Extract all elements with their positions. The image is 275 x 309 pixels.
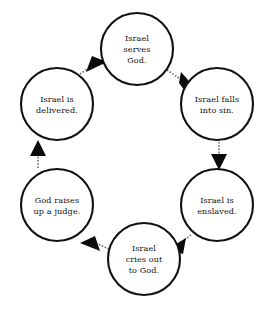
node-cries-out-label-line-3: to God. (129, 265, 160, 275)
node-serves-god-label-line-1: Israel (125, 33, 149, 43)
node-raises-judge-circle[interactable] (21, 169, 93, 241)
node-falls-into-sin-label-line-1: Israel falls (195, 94, 239, 104)
node-falls-into-sin-label-line-2: into sin. (200, 105, 234, 115)
edge-cries-to-judge (80, 236, 109, 251)
node-cries-out[interactable]: Israel cries out to God. (108, 223, 180, 295)
cycle-diagram: Israel serves God. Israel falls into sin… (0, 0, 275, 309)
edge-judge-to-delivered-arrowhead (30, 140, 46, 156)
node-enslaved[interactable]: Israel is enslaved. (181, 169, 253, 241)
node-serves-god-label-line-2: serves (124, 44, 151, 54)
node-raises-judge[interactable]: God raises up a judge. (21, 169, 93, 241)
node-cries-out-label-line-1: Israel (132, 243, 156, 253)
node-delivered-label-line-1: Israel is (40, 94, 74, 104)
edge-sin-to-enslaved (211, 142, 227, 170)
node-delivered[interactable]: Israel is delivered. (21, 68, 93, 140)
edge-judge-to-delivered (30, 140, 46, 168)
node-serves-god-label-line-3: God. (127, 55, 147, 65)
node-falls-into-sin-circle[interactable] (181, 68, 253, 140)
node-raises-judge-label-line-1: God raises (35, 195, 79, 205)
node-serves-god[interactable]: Israel serves God. (101, 13, 173, 85)
node-delivered-circle[interactable] (21, 68, 93, 140)
edge-cries-to-judge-arrowhead (80, 236, 100, 251)
node-enslaved-label-line-2: enslaved. (197, 206, 237, 216)
node-delivered-label-line-2: delivered. (36, 105, 78, 115)
node-raises-judge-label-line-2: up a judge. (34, 206, 81, 216)
node-enslaved-circle[interactable] (181, 169, 253, 241)
node-cries-out-label-line-2: cries out (126, 254, 163, 264)
cycle-diagram-canvas: Israel serves God. Israel falls into sin… (0, 0, 275, 309)
edge-sin-to-enslaved-arrowhead (211, 154, 227, 170)
node-enslaved-label-line-1: Israel is (200, 195, 234, 205)
node-falls-into-sin[interactable]: Israel falls into sin. (181, 68, 253, 140)
